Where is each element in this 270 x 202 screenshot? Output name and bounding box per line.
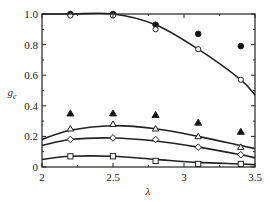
chart: 00.20.40.60.81.022.533.5 λ gc <box>0 0 270 202</box>
open-square-marker <box>68 154 73 159</box>
open-circle-marker <box>196 47 201 52</box>
y-tick-label: 1.0 <box>24 8 38 20</box>
y-tick-label: 0.2 <box>24 130 38 142</box>
open-diamond-marker <box>110 135 117 142</box>
open-circle-marker <box>238 77 243 82</box>
open-diamond-marker <box>67 136 74 143</box>
plot-area <box>42 11 255 166</box>
open-circle-marker <box>153 27 158 32</box>
x-axis-label: λ <box>145 185 151 197</box>
filled-triangle-marker <box>237 128 244 134</box>
fit-triangle-line <box>42 126 255 149</box>
filled-triangle-marker <box>110 110 117 116</box>
x-tick-label: 3 <box>181 171 187 183</box>
fit-circle-line <box>42 13 255 95</box>
x-tick-label: 2 <box>39 171 45 183</box>
y-tick-label: 0.6 <box>24 69 38 81</box>
x-tick-label: 2.5 <box>106 171 120 183</box>
open-square-marker <box>238 161 243 166</box>
filled-circle-marker <box>238 43 244 49</box>
filled-triangle-marker <box>152 111 159 117</box>
open-square-marker <box>110 154 115 159</box>
y-tick-label: 0 <box>33 161 39 173</box>
open-triangle-marker <box>67 126 73 132</box>
filled-triangle-marker <box>195 119 202 125</box>
y-tick-label: 0.4 <box>24 100 38 112</box>
open-diamond-marker <box>195 144 202 151</box>
fit-square-line <box>42 156 255 165</box>
open-square-marker <box>153 158 158 163</box>
filled-circle-marker <box>195 31 201 37</box>
y-axis-label: gc <box>7 86 17 101</box>
x-tick-label: 3.5 <box>248 171 262 183</box>
open-diamond-marker <box>238 151 245 158</box>
open-square-marker <box>196 161 201 166</box>
filled-triangle-marker <box>67 110 74 116</box>
open-triangle-marker <box>110 121 116 127</box>
plot-frame <box>42 14 255 167</box>
y-tick-label: 0.8 <box>24 39 38 51</box>
series-open-triangle <box>67 121 244 149</box>
